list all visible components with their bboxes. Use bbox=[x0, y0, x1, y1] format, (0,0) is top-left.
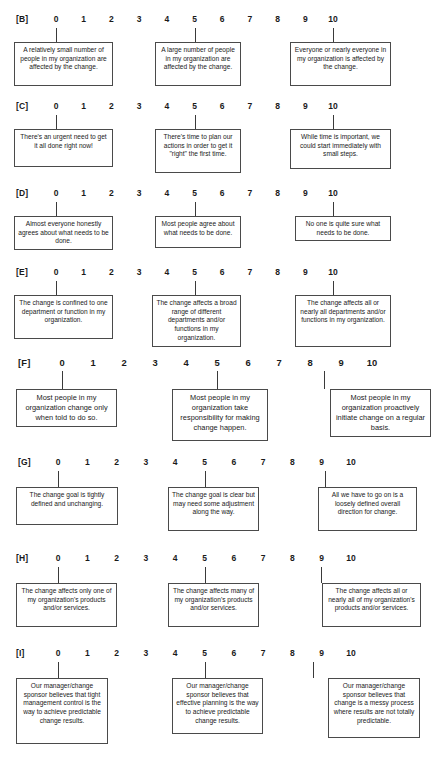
scale-tick-8[interactable]: 8 bbox=[275, 14, 280, 24]
scale-tick-4[interactable]: 4 bbox=[164, 267, 169, 277]
scale-tick-5[interactable]: 5 bbox=[202, 553, 207, 563]
scale-tick-1[interactable]: 1 bbox=[81, 101, 86, 111]
scale-tick-8[interactable]: 8 bbox=[307, 357, 312, 368]
scale-tick-10[interactable]: 10 bbox=[328, 14, 337, 24]
scale-tick-0[interactable]: 0 bbox=[54, 101, 59, 111]
scale-tick-5[interactable]: 5 bbox=[202, 648, 207, 658]
scale-tick-7[interactable]: 7 bbox=[248, 14, 253, 24]
scale-tick-3[interactable]: 3 bbox=[152, 357, 157, 368]
scale-tick-3[interactable]: 3 bbox=[137, 101, 142, 111]
scale-tick-2[interactable]: 2 bbox=[114, 457, 119, 467]
scale-block: [D]012345678910Almost everyone honestly … bbox=[0, 188, 435, 248]
scale-tick-0[interactable]: 0 bbox=[54, 267, 59, 277]
scale-tick-10[interactable]: 10 bbox=[328, 188, 337, 198]
scale-tick-5[interactable]: 5 bbox=[202, 457, 207, 467]
scale-tick-4[interactable]: 4 bbox=[164, 101, 169, 111]
scale-tick-9[interactable]: 9 bbox=[319, 457, 324, 467]
scale-tick-2[interactable]: 2 bbox=[114, 648, 119, 658]
scale-tick-4[interactable]: 4 bbox=[164, 188, 169, 198]
scale-tick-row: [F]012345678910 bbox=[0, 357, 435, 371]
scale-block: [B]012345678910A relatively small number… bbox=[0, 14, 435, 86]
scale-tick-7[interactable]: 7 bbox=[248, 188, 253, 198]
scale-tick-7[interactable]: 7 bbox=[248, 101, 253, 111]
scale-tick-1[interactable]: 1 bbox=[85, 648, 90, 658]
scale-tick-10[interactable]: 10 bbox=[346, 457, 355, 467]
scale-tick-0[interactable]: 0 bbox=[59, 357, 64, 368]
scale-tick-4[interactable]: 4 bbox=[173, 457, 178, 467]
scale-tick-1[interactable]: 1 bbox=[90, 357, 95, 368]
scale-tick-6[interactable]: 6 bbox=[231, 553, 236, 563]
scale-tick-5[interactable]: 5 bbox=[192, 188, 197, 198]
scale-tick-6[interactable]: 6 bbox=[231, 648, 236, 658]
scale-tick-2[interactable]: 2 bbox=[109, 267, 114, 277]
scale-tick-6[interactable]: 6 bbox=[220, 14, 225, 24]
scale-tick-6[interactable]: 6 bbox=[220, 267, 225, 277]
scale-tick-3[interactable]: 3 bbox=[137, 14, 142, 24]
scale-tick-1[interactable]: 1 bbox=[81, 14, 86, 24]
scale-tick-7[interactable]: 7 bbox=[261, 457, 266, 467]
scale-tick-4[interactable]: 4 bbox=[173, 553, 178, 563]
scale-block: [H]012345678910The change affects only o… bbox=[0, 553, 435, 627]
scale-tick-2[interactable]: 2 bbox=[109, 188, 114, 198]
anchor-leader-line bbox=[217, 371, 218, 389]
scale-tick-2[interactable]: 2 bbox=[109, 101, 114, 111]
anchor-description-box: The change goal is tightly defined and u… bbox=[16, 487, 118, 525]
scale-tick-8[interactable]: 8 bbox=[275, 188, 280, 198]
scale-tick-3[interactable]: 3 bbox=[137, 267, 142, 277]
scale-tick-9[interactable]: 9 bbox=[303, 101, 308, 111]
scale-tick-9[interactable]: 9 bbox=[338, 357, 343, 368]
scale-tick-7[interactable]: 7 bbox=[248, 267, 253, 277]
item-letter: [E] bbox=[16, 267, 28, 277]
scale-tick-8[interactable]: 8 bbox=[275, 267, 280, 277]
scale-tick-4[interactable]: 4 bbox=[183, 357, 188, 368]
scale-tick-10[interactable]: 10 bbox=[346, 553, 355, 563]
scale-tick-1[interactable]: 1 bbox=[85, 553, 90, 563]
scale-tick-1[interactable]: 1 bbox=[85, 457, 90, 467]
scale-tick-3[interactable]: 3 bbox=[144, 553, 149, 563]
scale-tick-0[interactable]: 0 bbox=[56, 648, 61, 658]
scale-tick-6[interactable]: 6 bbox=[220, 101, 225, 111]
scale-tick-7[interactable]: 7 bbox=[276, 357, 281, 368]
scale-tick-5[interactable]: 5 bbox=[192, 14, 197, 24]
scale-tick-8[interactable]: 8 bbox=[290, 457, 295, 467]
scale-tick-8[interactable]: 8 bbox=[290, 648, 295, 658]
scale-tick-9[interactable]: 9 bbox=[303, 14, 308, 24]
scale-tick-5[interactable]: 5 bbox=[192, 267, 197, 277]
scale-tick-row: [E]012345678910 bbox=[0, 267, 435, 281]
scale-tick-3[interactable]: 3 bbox=[137, 188, 142, 198]
scale-tick-0[interactable]: 0 bbox=[56, 457, 61, 467]
scale-tick-1[interactable]: 1 bbox=[81, 188, 86, 198]
item-letter: [H] bbox=[16, 553, 28, 563]
scale-tick-6[interactable]: 6 bbox=[245, 357, 250, 368]
scale-tick-9[interactable]: 9 bbox=[319, 648, 324, 658]
scale-tick-10[interactable]: 10 bbox=[367, 357, 377, 368]
scale-tick-2[interactable]: 2 bbox=[121, 357, 126, 368]
scale-tick-0[interactable]: 0 bbox=[56, 553, 61, 563]
scale-tick-0[interactable]: 0 bbox=[54, 14, 59, 24]
scale-tick-5[interactable]: 5 bbox=[192, 101, 197, 111]
anchor-leader-line bbox=[195, 281, 196, 295]
scale-tick-4[interactable]: 4 bbox=[173, 648, 178, 658]
scale-tick-8[interactable]: 8 bbox=[275, 101, 280, 111]
scale-tick-2[interactable]: 2 bbox=[109, 14, 114, 24]
scale-tick-7[interactable]: 7 bbox=[261, 553, 266, 563]
scale-tick-9[interactable]: 9 bbox=[319, 553, 324, 563]
scale-tick-5[interactable]: 5 bbox=[214, 357, 219, 368]
scale-tick-10[interactable]: 10 bbox=[328, 101, 337, 111]
scale-tick-9[interactable]: 9 bbox=[303, 267, 308, 277]
scale-tick-10[interactable]: 10 bbox=[346, 648, 355, 658]
scale-block: [F]012345678910Most people in my organiz… bbox=[0, 357, 435, 441]
scale-tick-9[interactable]: 9 bbox=[303, 188, 308, 198]
scale-tick-0[interactable]: 0 bbox=[54, 188, 59, 198]
scale-tick-2[interactable]: 2 bbox=[114, 553, 119, 563]
scale-tick-4[interactable]: 4 bbox=[164, 14, 169, 24]
scale-tick-7[interactable]: 7 bbox=[261, 648, 266, 658]
scale-tick-6[interactable]: 6 bbox=[220, 188, 225, 198]
scale-tick-1[interactable]: 1 bbox=[81, 267, 86, 277]
scale-tick-3[interactable]: 3 bbox=[144, 457, 149, 467]
scale-tick-3[interactable]: 3 bbox=[144, 648, 149, 658]
scale-tick-10[interactable]: 10 bbox=[328, 267, 337, 277]
scale-tick-6[interactable]: 6 bbox=[231, 457, 236, 467]
item-letter: [G] bbox=[18, 457, 31, 467]
scale-tick-8[interactable]: 8 bbox=[290, 553, 295, 563]
